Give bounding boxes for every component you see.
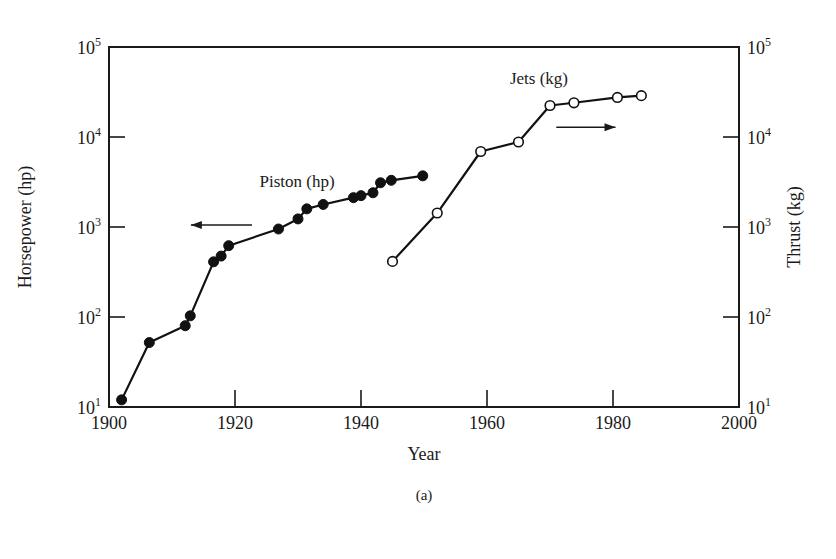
piston-hp-marker — [386, 175, 396, 185]
arrow-left-icon — [191, 221, 202, 229]
piston-hp-marker — [180, 321, 190, 331]
x-tick-label: 1980 — [595, 413, 631, 433]
piston-hp-marker — [356, 191, 366, 201]
left-y-axis-label: Horsepower (hp) — [15, 166, 36, 288]
piston-hp-marker — [293, 214, 303, 224]
jets-series-label: Jets (kg) — [510, 69, 568, 88]
axis-ticks: 1900192019401960198020001011011021021031… — [77, 35, 771, 433]
right-y-tick-label: 101 — [747, 395, 771, 418]
chart: 1900192019401960198020001011011021021031… — [0, 0, 836, 559]
piston-hp-marker — [144, 338, 154, 348]
piston-hp-marker — [318, 199, 328, 209]
left-y-tick-label: 102 — [77, 305, 101, 328]
piston-hp-marker — [117, 395, 127, 405]
jets-kg-marker — [545, 101, 555, 111]
jets-kg-marker — [514, 137, 524, 147]
piston-hp-marker — [302, 204, 312, 214]
piston-hp-marker — [376, 178, 386, 188]
x-axis-label: Year — [407, 444, 440, 464]
piston-series-label: Piston (hp) — [259, 172, 334, 191]
piston-hp-line — [122, 176, 423, 400]
x-tick-label: 1960 — [469, 413, 505, 433]
left-y-tick-label: 104 — [77, 125, 101, 148]
piston-hp-marker — [273, 224, 283, 234]
series — [117, 91, 647, 405]
right-y-tick-label: 104 — [747, 125, 771, 148]
right-y-tick-label: 102 — [747, 305, 771, 328]
jets-kg-marker — [637, 91, 647, 101]
piston-hp-marker — [418, 171, 428, 181]
right-y-tick-label: 103 — [747, 215, 771, 238]
left-y-tick-label: 105 — [77, 35, 101, 58]
piston-hp-marker — [224, 241, 234, 251]
right-y-axis-label: Thrust (kg) — [784, 186, 805, 267]
piston-hp-marker — [368, 188, 378, 198]
jets-kg-marker — [476, 147, 486, 157]
jets-kg-marker — [569, 98, 579, 108]
x-tick-label: 1900 — [91, 413, 127, 433]
arrow-right-icon — [605, 123, 616, 131]
x-tick-label: 1940 — [343, 413, 379, 433]
jets-kg-marker — [432, 208, 442, 218]
x-tick-label: 1920 — [217, 413, 253, 433]
right-y-tick-label: 105 — [747, 35, 771, 58]
jets-kg-marker — [613, 93, 623, 103]
annotations — [191, 123, 616, 229]
jets-kg-marker — [388, 257, 398, 267]
caption: (a) — [416, 487, 433, 504]
piston-hp-marker — [216, 251, 226, 261]
piston-hp-marker — [185, 311, 195, 321]
jets-kg-line — [393, 96, 642, 262]
left-y-tick-label: 103 — [77, 215, 101, 238]
